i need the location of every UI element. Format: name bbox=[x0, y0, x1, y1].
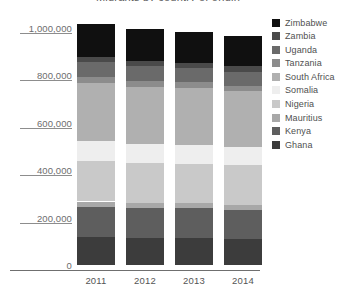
bar-segment-zimbabwe bbox=[126, 29, 164, 61]
legend-item-uganda[interactable]: Uganda bbox=[272, 43, 340, 56]
bar-segment-somalia bbox=[175, 145, 213, 164]
x-axis-label-2011: 2011 bbox=[77, 275, 115, 286]
legend-swatch-icon bbox=[272, 127, 280, 135]
legend-label: South Africa bbox=[285, 72, 335, 82]
bar-segment-zambia bbox=[175, 63, 213, 68]
bar-segment-somalia bbox=[224, 147, 262, 166]
legend-item-zambia[interactable]: Zambia bbox=[272, 30, 340, 43]
bar-segment-somalia bbox=[126, 144, 164, 163]
bar-segment-uganda bbox=[175, 68, 213, 82]
bar-segment-zimbabwe bbox=[224, 36, 262, 66]
legend-label: Kenya bbox=[285, 126, 311, 136]
bar-segment-kenya bbox=[77, 207, 115, 237]
legend-item-kenya[interactable]: Kenya bbox=[272, 125, 340, 138]
bar-2012 bbox=[126, 29, 164, 265]
legend-item-zimbabwe[interactable]: Zimbabwe bbox=[272, 16, 340, 29]
bar-segment-south-africa bbox=[224, 91, 262, 146]
bar-segment-nigeria bbox=[224, 165, 262, 204]
bar-2013 bbox=[175, 32, 213, 265]
x-axis-label-2013: 2013 bbox=[175, 275, 213, 286]
bar-segment-kenya bbox=[175, 208, 213, 238]
bar-segment-nigeria bbox=[175, 164, 213, 204]
legend-swatch-icon bbox=[272, 141, 280, 149]
bar-segment-somalia bbox=[77, 141, 115, 160]
legend-item-somalia[interactable]: Somalia bbox=[272, 84, 340, 97]
bar-segment-nigeria bbox=[126, 163, 164, 203]
bar-segment-mauritius bbox=[175, 203, 213, 208]
bar-segment-mauritius bbox=[77, 202, 115, 207]
x-axis-label-2012: 2012 bbox=[126, 275, 164, 286]
bar-segment-mauritius bbox=[126, 203, 164, 208]
bar-segment-uganda bbox=[77, 62, 115, 77]
bar-segment-tanzania bbox=[126, 81, 164, 87]
legend-item-nigeria[interactable]: Nigeria bbox=[272, 98, 340, 111]
legend-swatch-icon bbox=[272, 73, 280, 81]
legend-swatch-icon bbox=[272, 32, 280, 40]
bar-segment-zambia bbox=[77, 57, 115, 63]
legend-label: Zambia bbox=[285, 31, 316, 41]
legend-swatch-icon bbox=[272, 19, 280, 27]
bar-segment-kenya bbox=[126, 208, 164, 238]
bar-segment-south-africa bbox=[175, 88, 213, 144]
legend-swatch-icon bbox=[272, 59, 280, 67]
legend-label: Zimbabwe bbox=[285, 18, 327, 28]
bar-2014 bbox=[224, 36, 262, 265]
bar-segment-ghana bbox=[175, 238, 213, 265]
bar-segment-uganda bbox=[224, 72, 262, 86]
bar-segment-mauritius bbox=[224, 205, 262, 210]
legend-label: Ghana bbox=[285, 140, 313, 150]
legend-item-ghana[interactable]: Ghana bbox=[272, 138, 340, 151]
bar-segment-south-africa bbox=[126, 87, 164, 144]
legend-label: Uganda bbox=[285, 45, 317, 55]
bar-segment-tanzania bbox=[175, 82, 213, 88]
bar-segment-tanzania bbox=[77, 77, 115, 83]
legend-label: Mauritius bbox=[285, 113, 322, 123]
bar-segment-zimbabwe bbox=[77, 24, 115, 57]
bar-segment-ghana bbox=[224, 239, 262, 265]
bar-segment-nigeria bbox=[77, 161, 115, 202]
legend-label: Nigeria bbox=[285, 99, 314, 109]
legend-swatch-icon bbox=[272, 46, 280, 54]
x-axis-label-2014: 2014 bbox=[224, 275, 262, 286]
bar-segment-zimbabwe bbox=[175, 32, 213, 63]
stacked-bar-chart: Migrants by country of origin 0200,00040… bbox=[0, 0, 340, 290]
chart-legend: ZimbabweZambiaUgandaTanzaniaSouth Africa… bbox=[272, 16, 340, 152]
legend-label: Tanzania bbox=[285, 58, 322, 68]
bar-segment-kenya bbox=[224, 210, 262, 239]
bar-segment-ghana bbox=[77, 237, 115, 265]
bar-2011 bbox=[77, 24, 115, 265]
legend-item-south-africa[interactable]: South Africa bbox=[272, 70, 340, 83]
bar-segment-south-africa bbox=[77, 83, 115, 141]
legend-swatch-icon bbox=[272, 86, 280, 94]
bar-segment-zambia bbox=[126, 61, 164, 66]
bar-segment-tanzania bbox=[224, 86, 262, 92]
legend-swatch-icon bbox=[272, 114, 280, 122]
legend-label: Somalia bbox=[285, 85, 318, 95]
legend-item-mauritius[interactable]: Mauritius bbox=[272, 111, 340, 124]
bar-segment-zambia bbox=[224, 66, 262, 71]
legend-item-tanzania[interactable]: Tanzania bbox=[272, 57, 340, 70]
bar-segment-ghana bbox=[126, 238, 164, 265]
bar-segment-uganda bbox=[126, 66, 164, 80]
legend-swatch-icon bbox=[272, 100, 280, 108]
